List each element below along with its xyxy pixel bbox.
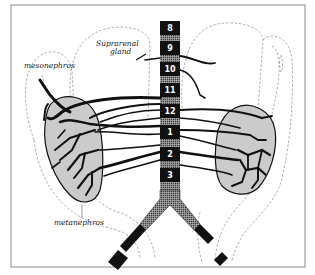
vertebral-segment-9: 9: [160, 44, 180, 54]
diagram-canvas: [0, 0, 315, 275]
vertebral-segment-12: 12: [160, 107, 180, 117]
metanephros-label: metanephros: [54, 219, 104, 227]
vertebral-segment-3: 3: [160, 171, 180, 181]
suprarenal-label-line2: gland: [96, 48, 139, 56]
embryonic-kidney-vasculature-diagram: 8 9 10 11 12 1 2 3 Suprarenal gland meso…: [0, 0, 315, 275]
vertebral-segment-11: 11: [160, 86, 180, 96]
vertebral-segment-2: 2: [160, 150, 180, 160]
suprarenal-gland-label: Suprarenal gland: [96, 40, 139, 56]
vertebral-segment-1: 1: [160, 128, 180, 138]
vertebral-segment-8: 8: [160, 24, 180, 34]
mesonephros-label: mesonephros: [24, 62, 75, 70]
left-metanephros: [45, 97, 103, 202]
right-metanephros: [215, 105, 275, 194]
vertebral-segment-10: 10: [160, 65, 180, 75]
aorta: [108, 21, 228, 270]
